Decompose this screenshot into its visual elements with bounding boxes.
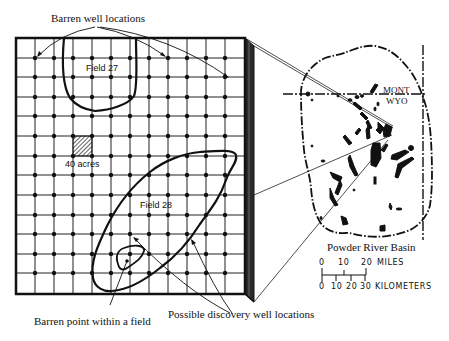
well-dot [52, 173, 56, 177]
well-dot [128, 75, 132, 79]
well-dot [185, 213, 189, 217]
well-dot [71, 154, 75, 158]
well-dot [147, 154, 151, 158]
field-27-label: Field 27 [86, 64, 118, 73]
well-dot [204, 154, 208, 158]
well-dot [71, 56, 75, 60]
well-dot [166, 173, 170, 177]
well-dot [33, 252, 37, 256]
well-dot [71, 213, 75, 217]
well-dot [185, 75, 189, 79]
well-dot [147, 75, 151, 79]
well-dot [71, 232, 75, 236]
well-dot [90, 95, 94, 99]
scale-miles-0: 0 [319, 259, 325, 267]
well-dot [52, 213, 56, 217]
well-dot [185, 232, 189, 236]
well-dot [71, 75, 75, 79]
well-dot [204, 75, 208, 79]
barren-point-callout: Barren point within a field [34, 316, 151, 327]
well-dot [166, 154, 170, 158]
well-dot [147, 114, 151, 118]
scale-km-unit: KILOMETERS [375, 283, 432, 291]
well-dot [147, 56, 151, 60]
well-dot [33, 154, 37, 158]
field-28-outline [92, 151, 236, 291]
scale-miles-20: 20 [361, 259, 372, 267]
well-dot [90, 56, 94, 60]
well-dot [185, 271, 189, 275]
well-dot [52, 114, 56, 118]
well-dot [147, 95, 151, 99]
well-dot [90, 193, 94, 197]
well-dot [147, 193, 151, 197]
well-dot [71, 134, 75, 138]
well-dot [109, 271, 113, 275]
well-dot [90, 114, 94, 118]
callout-leaders [38, 27, 232, 313]
well-dot [166, 252, 170, 256]
well-dot [204, 95, 208, 99]
well-dot [204, 134, 208, 138]
forty-acres-label: 40 acres [65, 160, 100, 169]
well-dot [90, 252, 94, 256]
field-27-outline [63, 38, 137, 111]
map-title: Powder River Basin [327, 242, 416, 253]
well-dot [128, 56, 132, 60]
well-dot [166, 75, 170, 79]
scale-miles-unit: MILES [377, 259, 404, 267]
well-dot [109, 193, 113, 197]
well-dot [33, 75, 37, 79]
scale-km-20: 20 [346, 283, 357, 291]
well-dot [52, 154, 56, 158]
forty-acre-cell [73, 136, 92, 156]
well-dot [204, 193, 208, 197]
well-dot [90, 232, 94, 236]
well-dot [71, 271, 75, 275]
well-dot [166, 114, 170, 118]
well-dot [33, 114, 37, 118]
well-dot [185, 95, 189, 99]
well-dot [52, 95, 56, 99]
state-label-wyo: WYO [386, 97, 408, 106]
well-dot [52, 193, 56, 197]
well-dot [223, 95, 227, 99]
scale-miles-10: 10 [338, 259, 349, 267]
well-dot [128, 114, 132, 118]
well-dot [166, 193, 170, 197]
well-dot [109, 252, 113, 256]
well-dot [128, 134, 132, 138]
well-dot [166, 56, 170, 60]
well-dot [185, 134, 189, 138]
well-dot [223, 134, 227, 138]
well-dot [204, 173, 208, 177]
well-dot [223, 114, 227, 118]
well-dot [223, 154, 227, 158]
well-dot [185, 114, 189, 118]
well-dot [128, 213, 132, 217]
well-dot [33, 271, 37, 275]
well-dot [128, 271, 132, 275]
well-dot [185, 56, 189, 60]
well-dot [204, 114, 208, 118]
well-dot [90, 213, 94, 217]
well-dot [109, 95, 113, 99]
well-dot [33, 173, 37, 177]
scale-km-30: 30 [360, 283, 371, 291]
basin-boundary [301, 46, 432, 237]
well-dot [166, 134, 170, 138]
well-dot [109, 173, 113, 177]
scale-km-0: 0 [319, 283, 325, 291]
well-dot [71, 173, 75, 177]
well-dot [33, 232, 37, 236]
well-dot [147, 232, 151, 236]
well-dot [223, 56, 227, 60]
scale-bar [322, 268, 366, 282]
well-dot [223, 252, 227, 256]
well-dot [109, 154, 113, 158]
state-label-mont: MONT [383, 86, 410, 95]
barren-wells-callout: Barren well locations [51, 13, 145, 24]
discovery-wells-callout: Possible discovery well locations [168, 309, 314, 320]
well-dot [90, 75, 94, 79]
well-dot [109, 134, 113, 138]
